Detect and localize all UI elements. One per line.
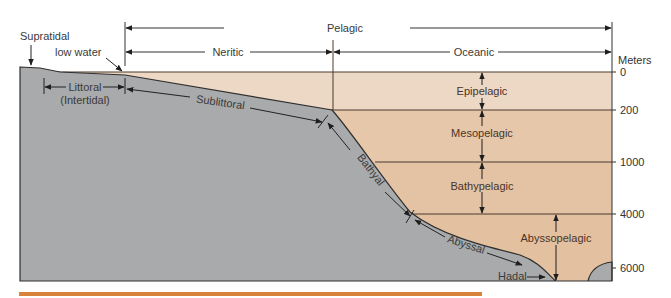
abyssopelagic-label: Abyssopelagic — [521, 232, 592, 244]
supratidal-label: Supratidal — [20, 30, 70, 42]
depth-tick-4000: 4000 — [620, 208, 644, 220]
depth-tick-1000: 1000 — [620, 156, 644, 168]
mesopelagic-label: Mesopelagic — [451, 127, 513, 139]
bathypelagic-label: Bathypelagic — [451, 180, 514, 192]
depth-tick-200: 200 — [620, 104, 638, 116]
ocean-zones-diagram: Pelagic Neritic Oceanic Supratidal low w… — [0, 0, 671, 298]
oceanic-label: Oceanic — [454, 46, 495, 58]
depth-axis-ticks — [612, 72, 616, 268]
littoral-label: Littoral — [68, 81, 101, 93]
hadal-label: Hadal — [498, 270, 527, 282]
low-water-arrow — [106, 58, 122, 71]
depth-tick-6000: 6000 — [620, 262, 644, 274]
neritic-label: Neritic — [212, 46, 244, 58]
low-water-label: low water — [55, 46, 102, 58]
epipelagic-label: Epipelagic — [457, 85, 508, 97]
accent-bar — [19, 292, 482, 296]
intertidal-label: (Intertidal) — [60, 94, 110, 106]
depth-tick-0: 0 — [620, 66, 626, 78]
pelagic-label: Pelagic — [327, 22, 364, 34]
depth-axis-unit: Meters — [618, 54, 652, 66]
